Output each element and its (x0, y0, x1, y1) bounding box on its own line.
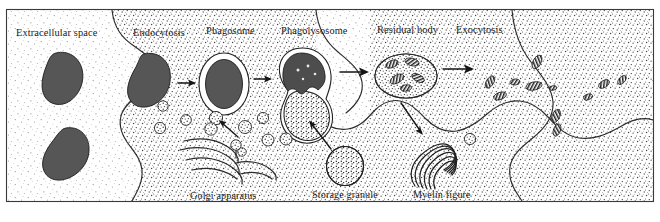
label-residual-body: Residual body (377, 24, 439, 35)
label-endocytosis: Endocytosis (133, 27, 185, 38)
label-extracellular-space: Extracellular space (16, 27, 98, 38)
diagram-canvas: Extracellular space Endocytosis Phagosom… (0, 0, 660, 222)
bottom-label-group: Golgi apparatus Storage granule Myelin f… (190, 189, 471, 201)
label-phagosome: Phagosome (206, 25, 255, 36)
phagocytosis-diagram: Extracellular space Endocytosis Phagosom… (0, 0, 660, 222)
label-exocytosis: Exocytosis (456, 24, 503, 35)
label-storage-granule: Storage granule (312, 189, 378, 200)
label-myelin-figure: Myelin figure (413, 189, 471, 200)
storage-granule-body (327, 147, 364, 186)
label-golgi-apparatus: Golgi apparatus (190, 190, 256, 201)
label-phagolysosome: Phagolysosome (281, 25, 348, 36)
